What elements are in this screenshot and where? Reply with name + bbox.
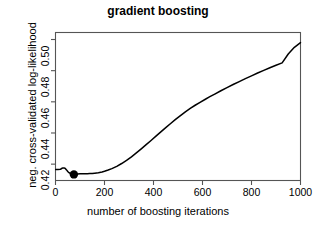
optimal-iteration-marker bbox=[70, 170, 78, 178]
y-axis-label: neg. cross-validated log-likelihood bbox=[26, 10, 38, 200]
x-tick-label: 1000 bbox=[289, 186, 312, 198]
y-tick-label: 0.46 bbox=[39, 101, 51, 135]
x-tick-label: 200 bbox=[96, 186, 114, 198]
x-tick-label: 0 bbox=[53, 186, 59, 198]
y-axis-ticks bbox=[51, 40, 56, 165]
x-axis-label: number of boosting iterations bbox=[0, 205, 316, 217]
y-tick-label: 0.44 bbox=[39, 132, 51, 166]
chart-figure: gradient boosting 02004006008001000 0.42… bbox=[0, 0, 316, 229]
data-series-line bbox=[56, 43, 301, 175]
x-tick-label: 600 bbox=[194, 186, 212, 198]
y-tick-label: 0.42 bbox=[39, 163, 51, 197]
y-tick-label: 0.50 bbox=[39, 39, 51, 73]
x-tick-label: 800 bbox=[243, 186, 261, 198]
x-axis-ticks bbox=[56, 181, 301, 186]
y-tick-label: 0.48 bbox=[39, 70, 51, 104]
x-tick-label: 400 bbox=[145, 186, 163, 198]
axes-box bbox=[56, 33, 301, 181]
